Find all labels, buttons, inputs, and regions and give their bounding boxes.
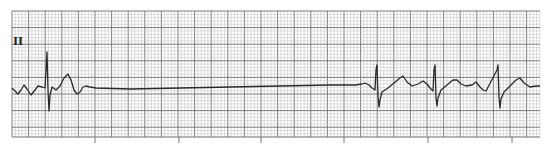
ecg-strip: II [0, 0, 548, 154]
ecg-grid [12, 11, 540, 137]
time-ticks [95, 137, 512, 143]
lead-label: II [13, 33, 23, 48]
